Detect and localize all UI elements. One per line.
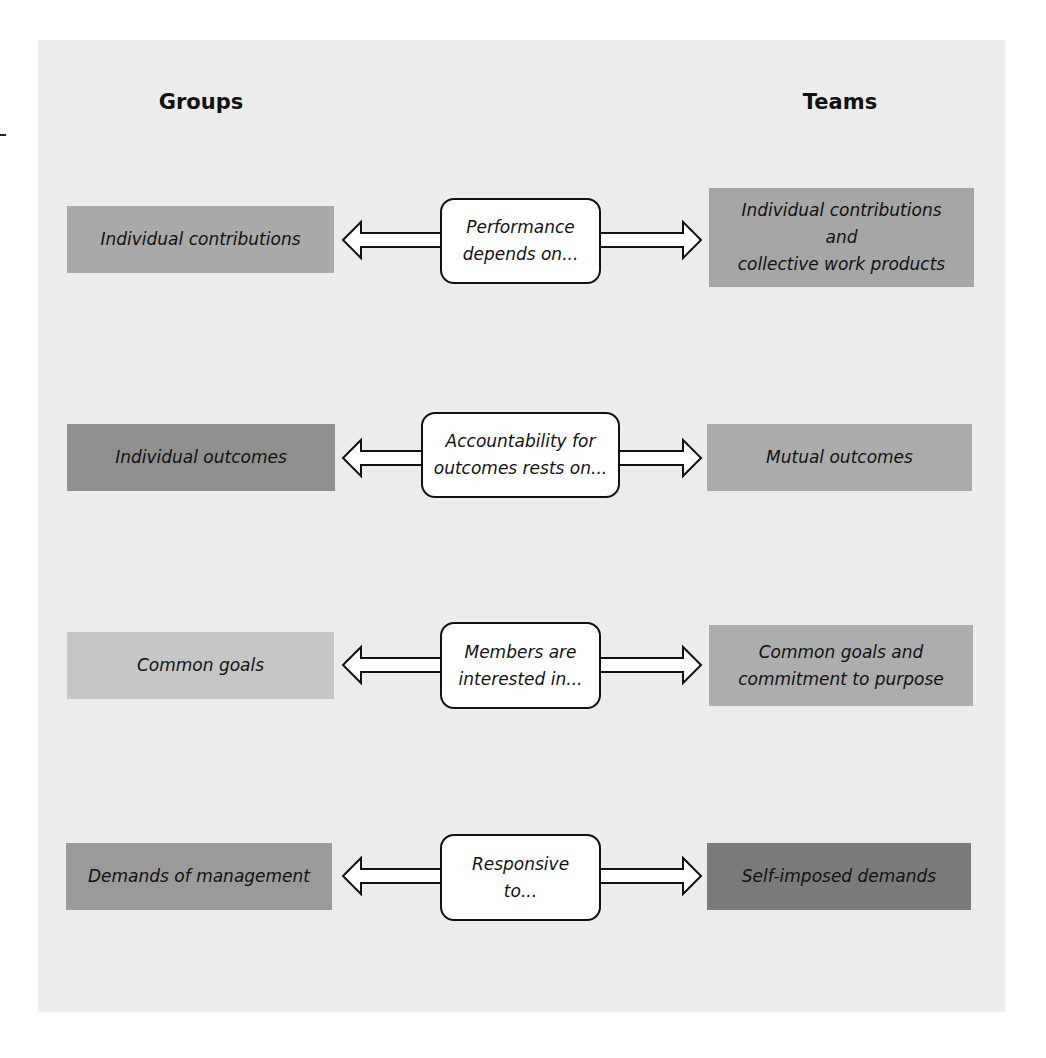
groups-header: Groups bbox=[101, 90, 301, 114]
callout-interests: Members are interested in... bbox=[440, 622, 601, 709]
group-box-interests: Common goals bbox=[67, 632, 334, 699]
group-box-responsiveness: Demands of management bbox=[66, 843, 332, 910]
team-box-responsiveness: Self-imposed demands bbox=[707, 843, 971, 910]
team-box-performance: Individual contributions and collective … bbox=[709, 188, 974, 287]
team-box-interests: Common goals and commitment to purpose bbox=[709, 625, 973, 706]
group-box-accountability: Individual outcomes bbox=[67, 424, 335, 491]
team-box-accountability: Mutual outcomes bbox=[707, 424, 972, 491]
page-edge-mark bbox=[0, 134, 6, 136]
group-box-performance: Individual contributions bbox=[67, 206, 334, 273]
callout-accountability: Accountability for outcomes rests on... bbox=[421, 412, 620, 498]
teams-header: Teams bbox=[740, 90, 940, 114]
callout-performance: Performance depends on... bbox=[440, 198, 601, 284]
callout-responsiveness: Responsive to... bbox=[440, 834, 601, 921]
